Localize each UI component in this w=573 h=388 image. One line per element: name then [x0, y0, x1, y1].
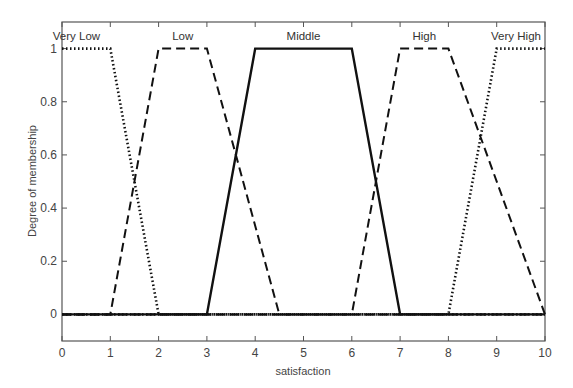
x-tick-label: 5 [300, 346, 307, 360]
y-tick-label: 0.6 [40, 148, 57, 162]
y-axis-label: Degree of membership [26, 125, 38, 237]
x-tick-label: 7 [397, 346, 404, 360]
y-tick-label: 0.2 [40, 254, 57, 268]
membership-curves [62, 49, 545, 315]
y-tick-label: 0.8 [40, 95, 57, 109]
label-high: High [412, 30, 436, 42]
x-tick-label: 0 [59, 346, 66, 360]
label-very-high: Very High [491, 30, 541, 42]
x-tick-label: 1 [107, 346, 114, 360]
x-tick-label: 10 [538, 346, 552, 360]
x-tick-label: 3 [204, 346, 211, 360]
membership-function-chart: 01234567891000.20.40.60.81 Very LowLowMi… [0, 0, 573, 388]
axis-ticks: 01234567891000.20.40.60.81 [40, 22, 552, 360]
y-tick-label: 1 [50, 42, 57, 56]
label-low: Low [172, 30, 194, 42]
curve-labels: Very LowLowMiddleHighVery High [53, 30, 541, 42]
x-tick-label: 9 [493, 346, 500, 360]
x-tick-label: 2 [155, 346, 162, 360]
label-very-low: Very Low [53, 30, 101, 42]
y-tick-label: 0 [50, 307, 57, 321]
x-tick-label: 8 [445, 346, 452, 360]
label-middle: Middle [287, 30, 321, 42]
x-axis-label: satisfaction [275, 365, 330, 377]
x-tick-label: 4 [252, 346, 259, 360]
y-tick-label: 0.4 [40, 201, 57, 215]
x-tick-label: 6 [348, 346, 355, 360]
